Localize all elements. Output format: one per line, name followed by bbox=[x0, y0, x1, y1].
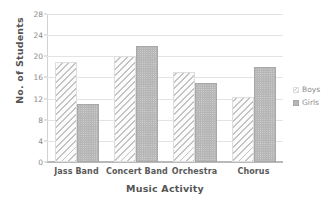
legend-label-boys: Boys bbox=[302, 85, 320, 94]
bar-group bbox=[224, 14, 283, 162]
legend-label-girls: Girls bbox=[302, 98, 319, 107]
plot-area: 0481216202428 Jass BandConcert BandOrche… bbox=[47, 14, 283, 162]
bar-girls[interactable] bbox=[77, 104, 99, 162]
y-tick-label: 28 bbox=[33, 10, 43, 19]
category-label: Concert Band bbox=[106, 167, 165, 176]
bar-chart: No. of Students 0481216202428 Jass BandC… bbox=[0, 0, 334, 201]
hatched-swatch-icon bbox=[293, 87, 299, 93]
y-tick-label: 16 bbox=[33, 73, 43, 82]
y-tick-label: 0 bbox=[38, 158, 43, 167]
dotted-swatch-icon bbox=[293, 100, 299, 106]
y-tick-label: 12 bbox=[33, 94, 43, 103]
bar-boys[interactable] bbox=[114, 56, 136, 162]
legend-item-girls[interactable]: Girls bbox=[293, 96, 334, 109]
bar-group bbox=[106, 14, 165, 162]
chart-legend: Boys Girls bbox=[293, 83, 334, 109]
y-tick-label: 4 bbox=[38, 136, 43, 145]
bar-group bbox=[47, 14, 106, 162]
bar-boys[interactable] bbox=[232, 97, 254, 162]
legend-item-boys[interactable]: Boys bbox=[293, 83, 334, 96]
chart-title bbox=[0, 0, 334, 7]
bar-boys[interactable] bbox=[55, 62, 77, 162]
category-label: Chorus bbox=[224, 167, 283, 176]
y-axis-title: No. of Students bbox=[14, 1, 25, 121]
y-tick-label: 8 bbox=[38, 115, 43, 124]
bar-group bbox=[165, 14, 224, 162]
y-tick-label: 20 bbox=[33, 52, 43, 61]
bar-girls[interactable] bbox=[195, 83, 217, 162]
bar-girls[interactable] bbox=[136, 46, 158, 162]
gridline bbox=[47, 162, 283, 163]
category-label: Jass Band bbox=[47, 167, 106, 176]
bar-boys[interactable] bbox=[173, 72, 195, 162]
bar-girls[interactable] bbox=[254, 67, 276, 162]
x-axis-title: Music Activity bbox=[47, 183, 283, 194]
y-tick-label: 24 bbox=[33, 31, 43, 40]
category-label: Orchestra bbox=[165, 167, 224, 176]
